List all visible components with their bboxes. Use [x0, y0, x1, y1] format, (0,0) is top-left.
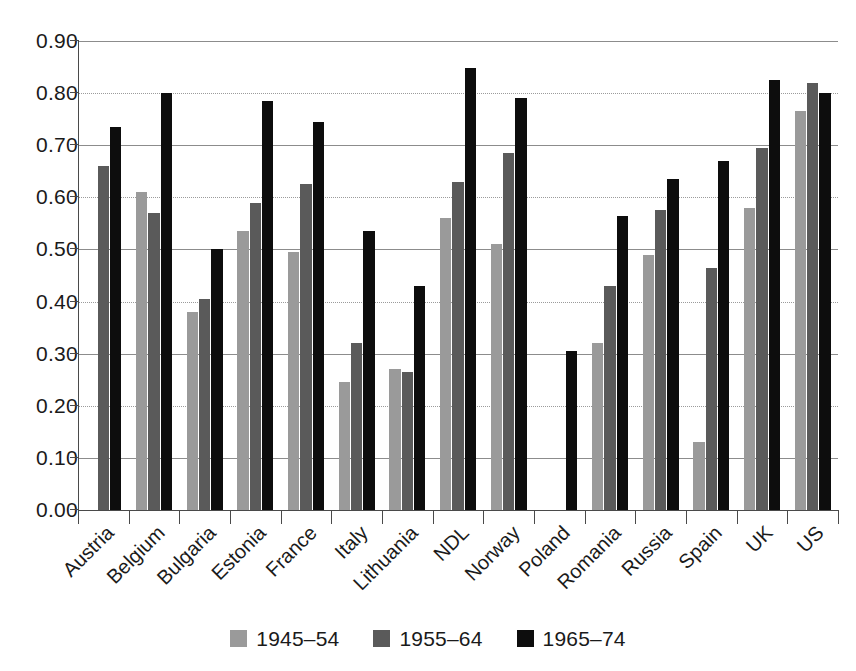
legend-label: 1945–54 — [256, 628, 339, 649]
y-axis-tick-label: 0.70 — [12, 134, 78, 155]
chart-legend: 1945–541955–641965–74 — [0, 628, 856, 649]
bar — [491, 244, 503, 510]
bar — [819, 93, 831, 510]
y-axis-tick-label: 0.40 — [12, 291, 78, 312]
bar-group — [534, 41, 585, 510]
y-axis-tick-label: 0.10 — [12, 447, 78, 468]
grouped-bar-chart: 0.900.800.700.600.500.400.300.200.100.00… — [0, 0, 856, 671]
bar — [515, 98, 527, 510]
legend-swatch — [517, 630, 534, 647]
bar — [136, 192, 148, 510]
bar — [250, 203, 262, 510]
bar-group — [78, 41, 129, 510]
bar — [795, 111, 807, 510]
bar-group — [635, 41, 686, 510]
legend-item: 1965–74 — [517, 628, 626, 649]
bar — [718, 161, 730, 510]
bar-group — [230, 41, 281, 510]
bar — [339, 382, 351, 510]
bar — [693, 442, 705, 510]
bar — [592, 343, 604, 510]
legend-item: 1945–54 — [230, 628, 339, 649]
bar — [617, 216, 629, 510]
bar — [667, 179, 679, 510]
bar — [402, 372, 414, 510]
bar — [465, 68, 477, 510]
bar-group — [483, 41, 534, 510]
bar — [604, 286, 616, 510]
y-axis-tick-label: 0.80 — [12, 82, 78, 103]
bar — [389, 369, 401, 510]
y-axis-tick-label: 0.50 — [12, 238, 78, 259]
bar — [98, 166, 110, 510]
bar-group — [382, 41, 433, 510]
bar — [363, 231, 375, 510]
legend-label: 1965–74 — [543, 628, 626, 649]
bar-group — [787, 41, 838, 510]
plot-area — [78, 41, 838, 510]
bar — [440, 218, 452, 510]
bar-group — [686, 41, 737, 510]
bar — [211, 249, 223, 510]
legend-label: 1955–64 — [399, 628, 482, 649]
bar — [110, 127, 122, 510]
bar — [503, 153, 515, 510]
bar — [643, 255, 655, 510]
bar — [199, 299, 211, 510]
legend-swatch — [230, 630, 247, 647]
bar — [148, 213, 160, 510]
bar-group — [585, 41, 636, 510]
bar — [414, 286, 426, 510]
bar — [300, 184, 312, 510]
legend-swatch — [373, 630, 390, 647]
x-axis-labels: AustriaBelgiumBulgariaEstoniaFranceItaly… — [0, 510, 856, 620]
bar-group — [331, 41, 382, 510]
bar — [161, 93, 173, 510]
bar — [566, 351, 578, 510]
bar-group — [281, 41, 332, 510]
y-axis-tick-label: 0.20 — [12, 395, 78, 416]
bar-group — [433, 41, 484, 510]
bar — [237, 231, 249, 510]
legend-item: 1955–64 — [373, 628, 482, 649]
y-axis-tick-label: 0.30 — [12, 343, 78, 364]
bar — [262, 101, 274, 510]
bar — [313, 122, 325, 510]
bar — [756, 148, 768, 510]
bar — [807, 83, 819, 510]
y-axis-tick-label: 0.90 — [12, 30, 78, 51]
y-axis-tick-label: 0.60 — [12, 186, 78, 207]
bar — [744, 208, 756, 510]
bar — [351, 343, 363, 510]
y-axis-line — [78, 41, 79, 511]
bar — [288, 252, 300, 510]
bar — [706, 268, 718, 510]
bar — [187, 312, 199, 510]
bar — [655, 210, 667, 510]
bar-group — [129, 41, 180, 510]
bar-group — [179, 41, 230, 510]
bar — [769, 80, 781, 510]
bar — [452, 182, 464, 510]
bar-group — [737, 41, 788, 510]
